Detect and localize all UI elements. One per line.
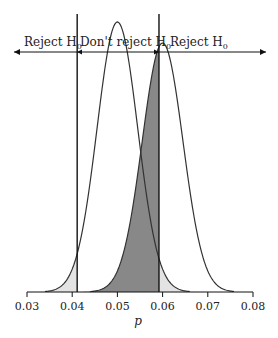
power-chart: 0.030.040.050.060.070.08 Reject H0 Don't… <box>0 0 278 338</box>
x-tick-label: 0.06 <box>150 300 175 313</box>
reject-right-label: Reject H0 <box>170 35 228 51</box>
x-tick-label: 0.03 <box>15 300 40 313</box>
arrow-right-icon <box>260 49 266 55</box>
x-tick-label: 0.07 <box>196 300 221 313</box>
x-tick-label: 0.04 <box>60 300 85 313</box>
x-tick-label: 0.08 <box>241 300 266 313</box>
x-axis: 0.030.040.050.060.070.08 <box>15 292 266 313</box>
arrow-left-icon <box>14 49 20 55</box>
reject-left-label: Reject H0 <box>24 35 82 51</box>
x-axis-label: p <box>134 314 142 328</box>
dont-reject-label: Don't reject H0 <box>80 35 171 51</box>
region-arrows <box>14 49 266 55</box>
x-tick-label: 0.05 <box>105 300 130 313</box>
chart: 0.030.040.050.060.070.08 Reject H0 Don't… <box>0 0 278 338</box>
